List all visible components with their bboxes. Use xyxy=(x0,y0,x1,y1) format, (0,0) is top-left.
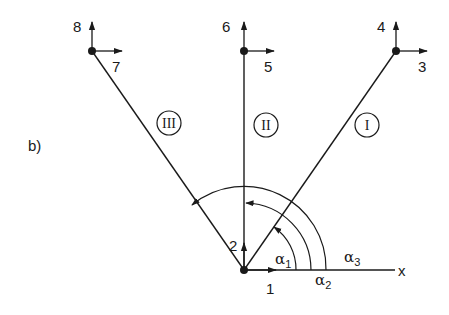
member-label-II: II xyxy=(254,113,278,137)
dof-label-1: 1 xyxy=(266,280,274,297)
dof-label-6: 6 xyxy=(222,18,230,35)
member-III xyxy=(92,51,244,270)
angle-label-alpha3: α3 xyxy=(344,248,360,268)
truss-diagram: x III II I α1 α2 α3 1 2 7 8 5 6 xyxy=(0,0,449,315)
svg-text:III: III xyxy=(162,116,176,131)
member-label-III: III xyxy=(157,111,181,135)
angle-label-alpha2: α2 xyxy=(315,271,331,291)
angle-arc-alpha3 xyxy=(192,186,326,270)
dof-label-2: 2 xyxy=(229,237,237,254)
svg-text:II: II xyxy=(261,118,271,133)
dof-label-8: 8 xyxy=(73,18,81,35)
svg-text:I: I xyxy=(365,118,370,133)
dof-label-3: 3 xyxy=(418,58,426,75)
figure-label: b) xyxy=(28,137,41,154)
dof-label-4: 4 xyxy=(377,18,385,35)
member-label-I: I xyxy=(355,113,379,137)
angle-label-alpha1: α1 xyxy=(275,250,291,270)
dof-label-5: 5 xyxy=(264,58,272,75)
x-axis-label: x xyxy=(398,262,406,279)
dof-label-7: 7 xyxy=(112,58,120,75)
